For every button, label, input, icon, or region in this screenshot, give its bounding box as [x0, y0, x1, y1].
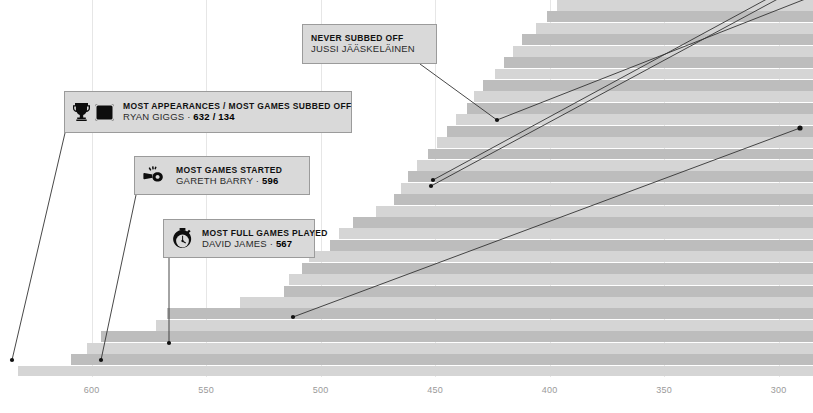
axis-tick-label: 550 — [198, 385, 214, 395]
bar — [428, 149, 813, 160]
bar — [474, 91, 813, 102]
bar — [536, 23, 813, 34]
axis-tick-label: 400 — [542, 385, 558, 395]
trophy-icon — [73, 102, 90, 122]
axis-tick-label: 600 — [84, 385, 100, 395]
bar — [284, 286, 813, 297]
callout-subject: DAVID JAMES · 567 — [202, 238, 328, 249]
bar — [522, 34, 813, 45]
callout-never-subbed-off[interactable]: NEVER SUBBED OFF JUSSI JÄÄSKELÄINEN — [302, 24, 437, 64]
callout-value: 567 — [276, 238, 292, 249]
bar — [353, 217, 813, 228]
bar — [394, 194, 813, 205]
bar — [71, 354, 813, 365]
callout-most-games-started[interactable]: MOST GAMES STARTED GARETH BARRY · 596 — [134, 156, 310, 195]
axis-tick-label: 500 — [313, 385, 329, 395]
callout-value: 596 — [262, 175, 278, 186]
gridline — [92, 0, 93, 377]
callout-subject-name: DAVID JAMES · — [202, 238, 273, 249]
bar — [18, 366, 813, 377]
stopwatch-icon — [172, 228, 193, 250]
callout-most-full-games[interactable]: MOST FULL GAMES PLAYED DAVID JAMES · 567 — [163, 219, 315, 258]
bar — [289, 274, 813, 285]
callout-subject-name: GARETH BARRY · — [176, 175, 259, 186]
axis-tick-label: 300 — [771, 385, 787, 395]
bar — [309, 251, 813, 262]
bar — [447, 126, 813, 137]
bar — [302, 263, 813, 274]
axis-tick-label: 350 — [656, 385, 672, 395]
callout-most-appearances[interactable]: MOST APPEARANCES / MOST GAMES SUBBED OFF… — [64, 91, 352, 133]
bar — [483, 80, 813, 91]
bar — [504, 57, 813, 68]
substitution-board-icon — [95, 104, 114, 121]
bar — [330, 240, 813, 251]
bar — [513, 46, 813, 57]
infographic-canvas: 600550500450400350300 — [0, 0, 813, 413]
bar — [376, 206, 813, 217]
callout-subject-name: RYAN GIGGS · — [123, 111, 191, 122]
bar — [240, 297, 813, 308]
callout-headline: NEVER SUBBED OFF — [311, 33, 415, 43]
bar — [437, 137, 813, 148]
callout-headline: MOST GAMES STARTED — [176, 165, 282, 175]
axis-tick-label: 450 — [427, 385, 443, 395]
bar — [339, 228, 813, 239]
bar — [167, 308, 813, 319]
bar — [87, 343, 813, 354]
callout-subject: GARETH BARRY · 596 — [176, 175, 282, 186]
callout-headline: MOST FULL GAMES PLAYED — [202, 228, 328, 238]
bar — [408, 171, 813, 182]
bar — [401, 183, 813, 194]
bar — [495, 69, 813, 80]
bar — [547, 11, 813, 22]
bar — [456, 114, 813, 125]
bar — [156, 320, 813, 331]
callout-subject: JUSSI JÄÄSKELÄINEN — [311, 43, 415, 54]
x-axis: 600550500450400350300 — [0, 377, 813, 413]
callout-value: 632 / 134 — [193, 111, 234, 122]
bar — [101, 331, 813, 342]
callout-subject: RYAN GIGGS · 632 / 134 — [123, 111, 352, 122]
callout-headline: MOST APPEARANCES / MOST GAMES SUBBED OFF — [123, 101, 352, 111]
bar — [467, 103, 813, 114]
whistle-icon — [143, 166, 167, 186]
bar — [557, 0, 813, 11]
bar — [417, 160, 813, 171]
